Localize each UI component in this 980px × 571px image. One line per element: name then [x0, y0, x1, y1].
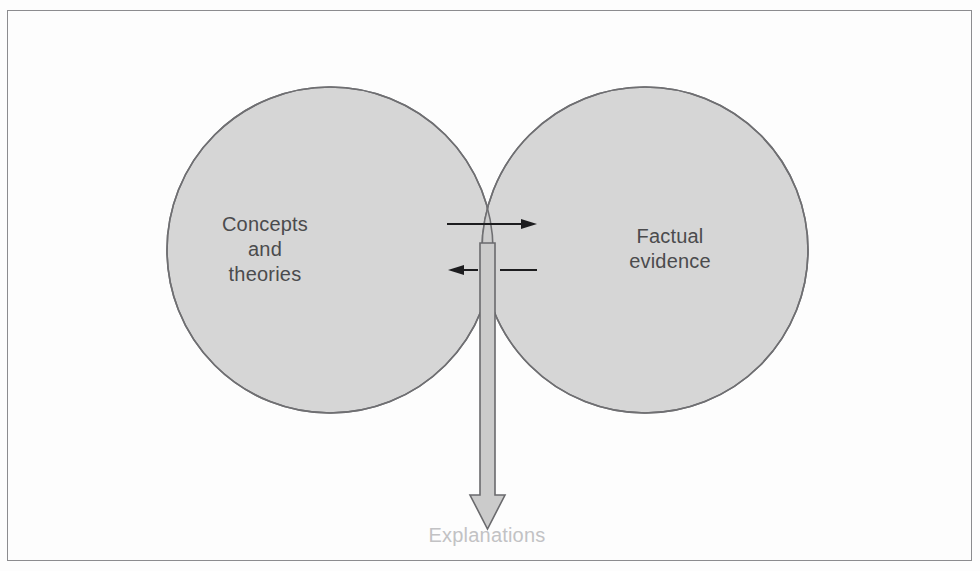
- evidence-label-line-2: evidence: [580, 249, 760, 274]
- evidence-label-line-1: Factual: [580, 224, 760, 249]
- concepts-label-line-2: and: [175, 237, 355, 262]
- evidence-circle-label: Factual evidence: [580, 224, 760, 274]
- concepts-label-line-1: Concepts: [175, 212, 355, 237]
- explanations-label: Explanations: [387, 524, 587, 547]
- concepts-circle-label: Concepts and theories: [175, 212, 355, 287]
- venn-diagram-figure: Concepts and theories Factual evidence E…: [0, 0, 980, 571]
- venn-diagram-canvas: [0, 0, 980, 571]
- concepts-label-line-3: theories: [175, 262, 355, 287]
